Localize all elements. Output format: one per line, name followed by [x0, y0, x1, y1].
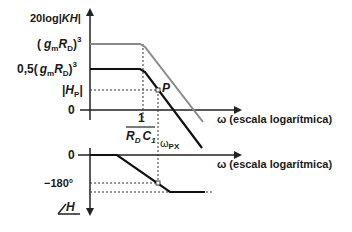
corner-frequency-label: 1 RDC1: [126, 111, 156, 145]
high-level-label: (gmRD)3: [37, 35, 82, 53]
point-p-label: P: [162, 81, 171, 95]
magnitude-x-axis-label: ω (escala logarítmica): [217, 113, 332, 125]
phase-y-axis-label: H: [58, 200, 80, 214]
low-level-label: 0,5(gmRD)3: [17, 60, 78, 78]
svg-text:1: 1: [138, 111, 145, 125]
svg-text:RDC1: RDC1: [126, 129, 156, 145]
wpx-label: ωPX: [160, 137, 180, 151]
hp-level-label: |HP|: [62, 83, 83, 99]
phase-curve: [90, 155, 205, 192]
phase-zero-label: 0: [68, 148, 75, 162]
point-p-marker: [156, 88, 160, 92]
zero-db-label: 0: [68, 103, 75, 117]
svg-text:H: H: [66, 200, 75, 214]
bode-diagram: P 20log|KH| (gmRD)3 0,5(gmRD)3 |HP| 0 1 …: [0, 0, 352, 232]
phase-minus180-label: −180°: [44, 177, 73, 189]
phase-plot: 0 −180° H ω (escala logarítmica): [44, 148, 332, 214]
magnitude-y-axis-label: 20log|KH|: [30, 12, 81, 24]
phase-x-axis-label: ω (escala logarítmica): [217, 158, 332, 170]
phase-crossover-marker: [156, 181, 160, 185]
